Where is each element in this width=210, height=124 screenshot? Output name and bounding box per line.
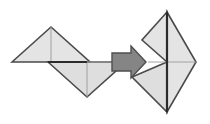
figure-canvas <box>0 0 210 124</box>
tangram-figure-svg <box>0 0 210 124</box>
